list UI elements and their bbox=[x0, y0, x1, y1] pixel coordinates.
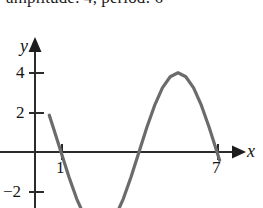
coordinate-plot bbox=[0, 0, 263, 208]
plot-area: y x 4 2 −2 1 7 bbox=[0, 0, 263, 208]
x-axis-label: x bbox=[247, 143, 255, 160]
y-tick-label-4: 4 bbox=[16, 64, 25, 81]
y-axis-label: y bbox=[20, 38, 28, 55]
y-tick-label-2: 2 bbox=[16, 104, 25, 121]
x-tick-label-7: 7 bbox=[212, 159, 221, 176]
x-tick-label-1: 1 bbox=[56, 159, 65, 176]
figure-root: amplitude: 4, period: 6 y x 4 bbox=[0, 0, 263, 208]
arrow-up-icon bbox=[29, 37, 42, 52]
y-tick-label-neg2: −2 bbox=[3, 183, 21, 200]
arrow-right-icon bbox=[232, 146, 246, 159]
sine-curve bbox=[49, 73, 219, 208]
